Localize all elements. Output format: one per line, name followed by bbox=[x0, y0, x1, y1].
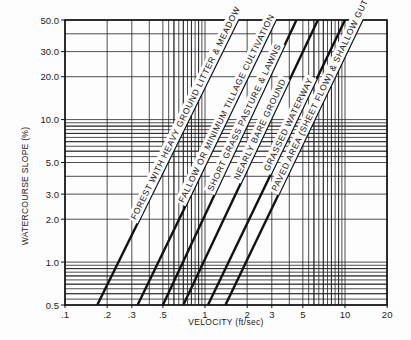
y-tick-label: 50.0 bbox=[41, 15, 60, 26]
x-tick-label: .3 bbox=[128, 309, 136, 320]
x-tick-label: 10 bbox=[340, 309, 351, 320]
y-tick-label: 0.5 bbox=[46, 300, 59, 311]
series-label: PAVED AREA (SHEET FLOW) & SHALLOW GUTTER… bbox=[269, 0, 391, 193]
y-axis-title: WATERCOURSE SLOPE (%) bbox=[20, 127, 30, 246]
y-tick-label: 5.0 bbox=[46, 157, 59, 168]
slope-velocity-chart: 0.51.02.03.05.010.020.030.050.0 .1.2.3.5… bbox=[0, 0, 411, 340]
series-lines: FOREST WITH HEAVY GROUND LITTER & MEADOW… bbox=[97, 0, 393, 305]
y-tick-label: 2.0 bbox=[46, 214, 59, 225]
x-tick-label: .1 bbox=[61, 309, 69, 320]
x-tick-label: 20 bbox=[382, 309, 393, 320]
x-tick-label: 5 bbox=[300, 309, 305, 320]
x-tick-label: .5 bbox=[159, 309, 167, 320]
x-tick-label: 3 bbox=[269, 309, 274, 320]
y-tick-label: 1.0 bbox=[46, 257, 59, 268]
x-axis-title: VELOCITY (ft/sec) bbox=[188, 317, 263, 327]
y-tick-label: 10.0 bbox=[41, 114, 60, 125]
y-tick-label: 30.0 bbox=[41, 46, 60, 57]
y-axis-ticks: 0.51.02.03.05.010.020.030.050.0 bbox=[41, 15, 66, 311]
y-tick-label: 20.0 bbox=[41, 71, 60, 82]
y-tick-label: 3.0 bbox=[46, 189, 59, 200]
x-tick-label: .2 bbox=[103, 309, 111, 320]
